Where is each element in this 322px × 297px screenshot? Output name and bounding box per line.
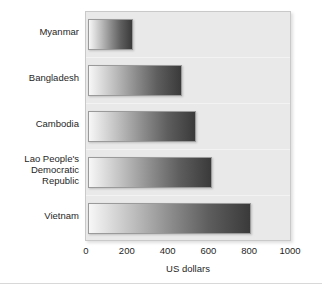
bar-row (86, 196, 290, 242)
category-label-lao-pdr: Lao People's Democratic Republic (0, 153, 79, 186)
category-label-myanmar: Myanmar (0, 26, 79, 37)
bar-vietnam (88, 203, 251, 234)
bar-lao-pdr (88, 157, 212, 188)
bar-cambodia (88, 111, 196, 142)
category-label-vietnam: Vietnam (0, 210, 79, 221)
bar-chart-figure: Myanmar Bangladesh Cambodia Lao People's… (0, 0, 322, 297)
plot-area (85, 11, 291, 241)
x-tick-400: 400 (148, 245, 188, 257)
x-tick-800: 800 (229, 245, 269, 257)
category-label-bangladesh: Bangladesh (0, 72, 79, 83)
bar-row (86, 58, 290, 104)
x-tick-0: 0 (66, 245, 106, 257)
x-tick-600: 600 (188, 245, 228, 257)
x-tick-200: 200 (107, 245, 147, 257)
bar-myanmar (88, 19, 133, 50)
bar-row (86, 150, 290, 196)
page-edge-line (0, 283, 322, 284)
bar-row (86, 12, 290, 58)
x-tick-1000: 1000 (270, 245, 310, 257)
bar-bangladesh (88, 65, 182, 96)
bar-row (86, 104, 290, 150)
x-axis-title: US dollars (85, 263, 291, 274)
x-axis-tick-labels: 0 200 400 600 800 1000 (85, 245, 291, 259)
category-label-cambodia: Cambodia (0, 118, 79, 129)
